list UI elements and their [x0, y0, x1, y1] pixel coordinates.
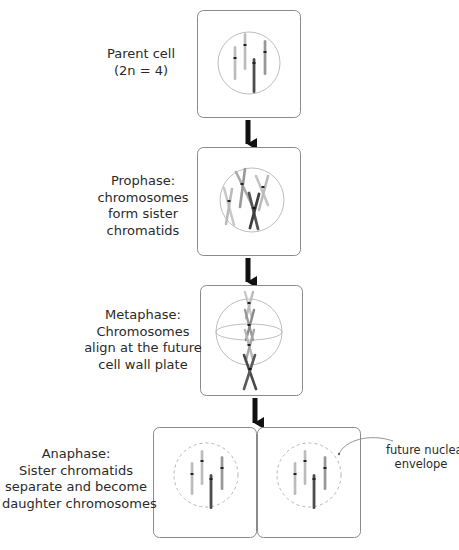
stage-label-metaphase: Metaphase: Chromosomes align at the futu…: [84, 307, 202, 373]
stage-label-anaphase: Anaphase: Sister chromatids separate and…: [2, 446, 150, 512]
label-line: Parent cell: [95, 46, 187, 63]
metaphase-cell-box: [201, 286, 303, 396]
annotation-leader-dot: [338, 453, 340, 455]
label-line: Prophase:: [93, 173, 193, 190]
label-line: align at the future: [84, 340, 202, 357]
label-line: (2n = 4): [95, 63, 187, 80]
chromosome-icon: [244, 33, 247, 70]
label-line: separate and become: [2, 479, 150, 496]
chromosome-icon: [294, 462, 297, 495]
chromosome-icon: [324, 456, 327, 490]
chromosome-icon: [253, 58, 256, 93]
annotation-line: envelope: [386, 457, 456, 471]
label-line: Anaphase:: [2, 446, 150, 463]
prophase-cell-box: [198, 148, 301, 256]
annotation-line: future nuclear: [386, 443, 456, 457]
stage-label-parent: Parent cell (2n = 4): [95, 46, 187, 79]
chromosome-icon: [201, 450, 204, 485]
chromosome-icon: [304, 450, 307, 485]
chromosome-icon: [210, 474, 213, 509]
chromosome-icon: [313, 474, 316, 509]
label-line: Chromosomes: [84, 324, 202, 341]
annotation-future-nuclear-envelope: future nuclear envelope: [386, 443, 456, 471]
label-line: chromatids: [93, 223, 193, 240]
anaphase-left-cell-box: [154, 428, 257, 538]
label-line: Metaphase:: [84, 307, 202, 324]
label-line: daughter chromosomes: [2, 496, 150, 513]
parent-cell-box: [198, 11, 301, 118]
label-line: Sister chromatids: [2, 463, 150, 480]
stage-label-prophase: Prophase: chromosomes form sister chroma…: [93, 173, 193, 239]
label-line: chromosomes: [93, 190, 193, 207]
chromosome-icon: [264, 40, 267, 75]
anaphase-right-cell-box: [258, 428, 361, 538]
label-line: cell wall plate: [84, 357, 202, 374]
chromosome-icon: [221, 456, 224, 490]
label-line: form sister: [93, 206, 193, 223]
chromosome-icon: [234, 46, 237, 80]
chromosome-icon: [191, 462, 194, 495]
